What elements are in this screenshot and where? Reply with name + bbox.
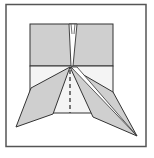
origami-diagram [0,0,154,158]
